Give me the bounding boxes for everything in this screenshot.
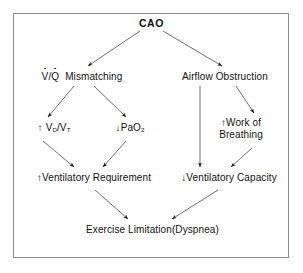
q-dot-symbol: Q <box>51 71 59 83</box>
node-ventilatory-capacity: ↓Ventilatory Capacity <box>168 172 290 184</box>
node-work-line2: Breathing <box>196 129 286 141</box>
node-exercise-label: Exercise Limitation <box>86 224 172 235</box>
node-work-line1-wrap: ↑Work of <box>196 117 286 129</box>
node-airflow-obstruction: Airflow Obstruction <box>160 71 290 83</box>
node-vdvt-v2: V <box>60 122 67 133</box>
node-vq-mismatching: V/QMismatching <box>14 71 150 83</box>
node-airflow-label: Airflow Obstruction <box>182 71 268 82</box>
node-vd-vt: ↑VD/VT <box>14 122 94 134</box>
node-pao2: ↓PaO2 <box>94 122 166 134</box>
node-work-line1: Work of <box>226 117 261 128</box>
node-work-of-breathing: ↑Work of Breathing <box>196 117 286 141</box>
node-exercise-paren: (Dyspnea) <box>172 224 219 235</box>
node-pao2-label: PaO <box>121 122 141 133</box>
up-arrow-icon: ↑ <box>38 122 43 133</box>
node-vdvt-sub-t: T <box>67 126 71 133</box>
node-pao2-sub: 2 <box>141 126 144 133</box>
node-ventilatory-requirement: ↑Ventilatory Requirement <box>14 172 174 184</box>
node-vq-v: V <box>42 71 49 82</box>
node-vq-q: Q <box>51 71 59 82</box>
node-vq-label: Mismatching <box>65 71 122 82</box>
v-dot-symbol: V <box>42 71 49 83</box>
node-exercise-limitation: Exercise Limitation(Dyspnea) <box>40 224 265 236</box>
node-cao: CAO <box>0 17 303 29</box>
node-vcap-label: Ventilatory Capacity <box>186 172 276 183</box>
figure-canvas: CAO V/QMismatching Airflow Obstruction ↑… <box>0 0 303 273</box>
node-cao-label: CAO <box>139 17 164 29</box>
node-vreq-label: Ventilatory Requirement <box>42 172 151 183</box>
